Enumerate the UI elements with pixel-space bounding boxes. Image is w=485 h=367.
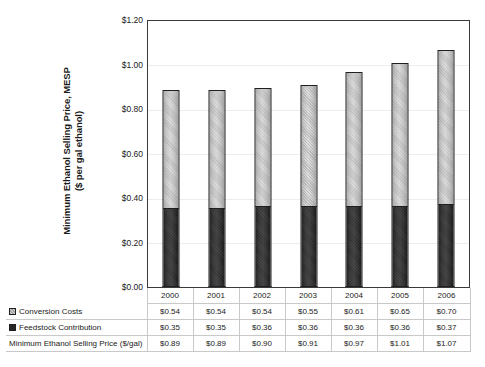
y-axis-title-line-1: Minimum Ethanol Selling Price, MESP	[61, 14, 73, 289]
stacked-bar	[208, 90, 225, 287]
stacked-bar	[438, 50, 455, 287]
stacked-bar	[392, 63, 409, 287]
y-axis-title-line-2: ($ per gal ethanol)	[73, 14, 85, 289]
y-axis-title: Minimum Ethanol Selling Price, MESP ($ p…	[61, 14, 91, 289]
y-tick-label: $0.40	[100, 194, 143, 203]
value-cell: $0.90	[239, 336, 285, 352]
value-cell: $0.36	[285, 320, 331, 336]
stacked-bar	[346, 72, 363, 287]
table-row-years: 2000 2001 2002 2003 2004 2005 2006	[6, 288, 470, 304]
year-cell: 2002	[239, 288, 285, 304]
stacked-bar	[254, 88, 271, 288]
table-corner-cell	[6, 288, 147, 304]
value-cell: $0.35	[193, 320, 239, 336]
table-row-feedstock-contribution: Feedstock Contribution $0.35 $0.35 $0.36…	[6, 320, 470, 336]
value-cell: $0.61	[331, 304, 377, 320]
bar-slot	[286, 21, 332, 287]
value-cell: $0.36	[239, 320, 285, 336]
chart-figure: Minimum Ethanol Selling Price, MESP ($ p…	[0, 0, 485, 367]
legend-label-conversion-costs: Conversion Costs	[19, 307, 82, 316]
value-cell: $0.89	[193, 336, 239, 352]
year-cell: 2001	[193, 288, 239, 304]
bar-series-group	[148, 21, 469, 287]
bar-segment-conversion-costs	[254, 88, 271, 208]
bar-segment-conversion-costs	[208, 90, 225, 210]
bar-segment-feedstock-contribution	[438, 205, 455, 287]
row-label-total-mesp: Minimum Ethanol Selling Price ($/gal)	[6, 336, 147, 352]
value-cell: $0.36	[331, 320, 377, 336]
value-cell: $0.54	[147, 304, 193, 320]
bar-segment-conversion-costs	[392, 63, 409, 207]
value-cell: $0.91	[285, 336, 331, 352]
value-cell: $1.07	[423, 336, 470, 352]
y-tick-label: $0.60	[100, 150, 143, 159]
legend-item-conversion-costs: Conversion Costs	[6, 304, 147, 320]
value-cell: $0.97	[331, 336, 377, 352]
bar-segment-conversion-costs	[300, 85, 317, 207]
table-row-total-mesp: Minimum Ethanol Selling Price ($/gal) $0…	[6, 336, 470, 352]
value-cell: $0.37	[423, 320, 470, 336]
stacked-bar	[162, 90, 179, 287]
y-tick-label: $0.80	[100, 105, 143, 114]
year-cell: 2004	[331, 288, 377, 304]
value-cell: $0.35	[147, 320, 193, 336]
data-table: 2000 2001 2002 2003 2004 2005 2006 Conve…	[6, 288, 471, 352]
bar-slot	[148, 21, 194, 287]
year-cell: 2006	[423, 288, 470, 304]
light-hatched-square-icon	[9, 308, 16, 315]
y-axis-tick-labels: $1.20 $1.00 $0.80 $0.60 $0.40 $0.20 $0.0…	[100, 0, 143, 300]
y-tick-label: $0.20	[100, 239, 143, 248]
value-cell: $0.89	[147, 336, 193, 352]
value-cell: $0.65	[377, 304, 423, 320]
bar-segment-feedstock-contribution	[162, 209, 179, 287]
value-cell: $0.54	[193, 304, 239, 320]
value-cell: $0.36	[377, 320, 423, 336]
bar-segment-conversion-costs	[346, 72, 363, 207]
bar-slot	[377, 21, 423, 287]
value-cell: $0.70	[423, 304, 470, 320]
bar-slot	[194, 21, 240, 287]
bar-segment-feedstock-contribution	[208, 209, 225, 287]
bar-slot	[331, 21, 377, 287]
year-cell: 2003	[285, 288, 331, 304]
y-tick-label: $1.20	[100, 16, 143, 25]
year-cell: 2000	[147, 288, 193, 304]
bar-segment-conversion-costs	[438, 50, 455, 205]
bar-segment-feedstock-contribution	[392, 207, 409, 287]
dark-filled-square-icon	[9, 324, 16, 331]
table-row-conversion-costs: Conversion Costs $0.54 $0.54 $0.54 $0.55…	[6, 304, 470, 320]
plot-area	[147, 20, 470, 288]
bar-segment-feedstock-contribution	[346, 207, 363, 287]
y-tick-label: $1.00	[100, 61, 143, 70]
stacked-bar	[300, 85, 317, 287]
value-cell: $0.54	[239, 304, 285, 320]
legend-label-feedstock-contribution: Feedstock Contribution	[19, 323, 101, 332]
bar-segment-conversion-costs	[162, 90, 179, 210]
bar-segment-feedstock-contribution	[300, 207, 317, 287]
bar-slot	[423, 21, 469, 287]
bar-segment-feedstock-contribution	[254, 207, 271, 287]
value-cell: $1.01	[377, 336, 423, 352]
legend-item-feedstock-contribution: Feedstock Contribution	[6, 320, 147, 336]
value-cell: $0.55	[285, 304, 331, 320]
bar-slot	[240, 21, 286, 287]
year-cell: 2005	[377, 288, 423, 304]
